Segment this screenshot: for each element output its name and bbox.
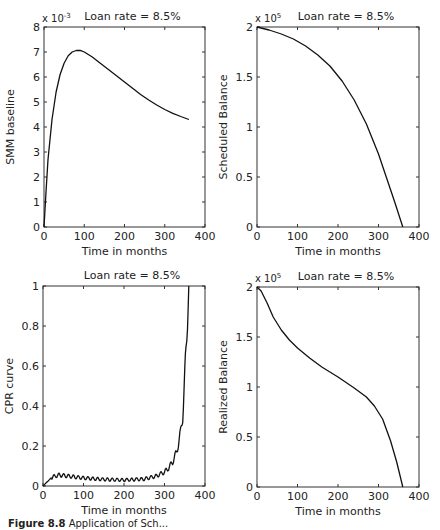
x-tick-label: 100 bbox=[74, 230, 95, 243]
chart-cpr: 010020030040000.20.40.60.81Loan rate = 8… bbox=[0, 0, 440, 530]
x-tick-label: 200 bbox=[114, 489, 135, 502]
y-tick-label: 1.5 bbox=[236, 71, 254, 84]
y-tick-label: 0 bbox=[32, 480, 39, 493]
y-axis-label: SMM baseline bbox=[4, 89, 17, 165]
x-axis-label: Time in months bbox=[294, 505, 381, 518]
y-tick-label: 0.4 bbox=[22, 400, 40, 413]
plot-area bbox=[44, 27, 205, 227]
x-tick-label: 100 bbox=[287, 490, 308, 503]
series-line bbox=[257, 27, 403, 227]
y-tick-label: 5 bbox=[33, 96, 40, 109]
y-tick-label: 2 bbox=[246, 281, 253, 294]
y-tick-label: 7 bbox=[33, 46, 40, 59]
x-tick-label: 200 bbox=[328, 490, 349, 503]
x-axis-label: Time in months bbox=[81, 245, 168, 258]
y-tick-label: 2 bbox=[246, 21, 253, 34]
figure-caption-label: Figure 8.8 bbox=[8, 518, 65, 529]
y-tick-label: 1 bbox=[32, 280, 39, 293]
y-multiplier-label: x 10-3 bbox=[42, 12, 71, 24]
figure-caption: Figure 8.8 Application of Sch... bbox=[8, 518, 168, 529]
x-tick-label: 0 bbox=[40, 489, 47, 502]
y-multiplier-label: x 105 bbox=[255, 272, 281, 284]
chart-title: Loan rate = 8.5% bbox=[298, 270, 394, 283]
chart-title: Loan rate = 8.5% bbox=[298, 10, 394, 23]
y-tick-label: 0.5 bbox=[236, 431, 254, 444]
series-line bbox=[257, 287, 403, 487]
y-tick-label: 2 bbox=[33, 171, 40, 184]
y-tick-label: 3 bbox=[33, 146, 40, 159]
y-tick-label: 8 bbox=[33, 21, 40, 34]
x-tick-label: 400 bbox=[195, 230, 216, 243]
x-axis-label: Time in months bbox=[294, 245, 381, 258]
y-tick-label: 6 bbox=[33, 71, 40, 84]
x-tick-label: 100 bbox=[287, 230, 308, 243]
y-tick-label: 0.5 bbox=[236, 171, 254, 184]
chart-title: Loan rate = 8.5% bbox=[84, 269, 180, 282]
y-multiplier-label: x 105 bbox=[255, 12, 281, 24]
chart-title: Loan rate = 8.5% bbox=[84, 10, 180, 23]
series-line bbox=[43, 286, 189, 486]
chart-realized-balance: 010020030040000.511.52x 105Loan rate = 8… bbox=[0, 0, 440, 530]
series-line bbox=[44, 50, 189, 227]
x-tick-label: 0 bbox=[254, 230, 261, 243]
x-tick-label: 400 bbox=[409, 490, 430, 503]
y-axis-label: Realized Balance bbox=[217, 340, 230, 434]
y-tick-label: 1.5 bbox=[236, 331, 254, 344]
y-tick-label: 0 bbox=[246, 481, 253, 494]
y-tick-label: 0.2 bbox=[22, 440, 40, 453]
chart-smm: 0100200300400012345678x 10-3Loan rate = … bbox=[0, 0, 440, 530]
x-tick-label: 0 bbox=[254, 490, 261, 503]
y-tick-label: 4 bbox=[33, 121, 40, 134]
x-tick-label: 200 bbox=[328, 230, 349, 243]
plot-area bbox=[257, 27, 419, 227]
figure-caption-text: Application of Sch... bbox=[69, 518, 169, 529]
y-tick-label: 0 bbox=[33, 221, 40, 234]
y-tick-label: 0.8 bbox=[22, 320, 40, 333]
x-tick-label: 300 bbox=[368, 490, 389, 503]
y-tick-label: 0.6 bbox=[22, 360, 40, 373]
y-tick-label: 1 bbox=[246, 381, 253, 394]
plot-area bbox=[43, 286, 205, 486]
x-tick-label: 0 bbox=[41, 230, 48, 243]
y-tick-label: 1 bbox=[246, 121, 253, 134]
chart-scheduled-balance: 010020030040000.511.52x 105Loan rate = 8… bbox=[0, 0, 440, 530]
x-tick-label: 300 bbox=[368, 230, 389, 243]
y-axis-label: Scheduled Balance bbox=[217, 74, 230, 179]
x-tick-label: 400 bbox=[409, 230, 430, 243]
y-tick-label: 0 bbox=[246, 221, 253, 234]
x-tick-label: 300 bbox=[154, 489, 175, 502]
x-tick-label: 400 bbox=[195, 489, 216, 502]
x-axis-label: Time in months bbox=[80, 504, 167, 517]
y-tick-label: 1 bbox=[33, 196, 40, 209]
x-tick-label: 200 bbox=[114, 230, 135, 243]
y-axis-label: CPR curve bbox=[3, 358, 16, 415]
plot-area bbox=[257, 287, 419, 487]
x-tick-label: 300 bbox=[154, 230, 175, 243]
x-tick-label: 100 bbox=[73, 489, 94, 502]
